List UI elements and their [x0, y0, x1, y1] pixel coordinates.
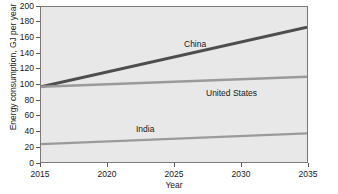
y-tick-label: 20: [25, 142, 34, 152]
x-tick-mark: [40, 163, 41, 167]
y-tick-label: 180: [20, 16, 34, 26]
y-tick-label: 40: [25, 126, 34, 136]
x-tick-mark: [241, 163, 242, 167]
series-label-united-states: United States: [206, 88, 257, 98]
y-tick-label: 0: [29, 158, 34, 168]
plot-area: [40, 6, 308, 163]
x-tick-label: 2030: [221, 169, 261, 179]
series-label-china: China: [184, 39, 206, 49]
y-tick-label: 60: [25, 110, 34, 120]
y-tick-label: 160: [20, 32, 34, 42]
x-tick-label: 2020: [87, 169, 127, 179]
y-tick-label: 140: [20, 48, 34, 58]
x-tick-mark: [174, 163, 175, 167]
x-tick-label: 2015: [20, 169, 60, 179]
y-axis-title: Energy consumption, GJ per year: [8, 0, 18, 142]
energy-consumption-line-chart: Energy consumption, GJ per year 02040608…: [0, 0, 338, 194]
x-tick-label: 2035: [288, 169, 328, 179]
series-lines: [41, 7, 307, 162]
y-tick-label: 80: [25, 95, 34, 105]
y-tick-label: 120: [20, 63, 34, 73]
x-axis-title: Year: [40, 180, 308, 190]
y-tick-label: 100: [20, 79, 34, 89]
x-tick-mark: [308, 163, 309, 167]
series-line-india: [41, 133, 307, 144]
x-tick-mark: [107, 163, 108, 167]
y-tick-label: 200: [20, 1, 34, 11]
x-tick-label: 2025: [154, 169, 194, 179]
series-label-india: India: [136, 124, 154, 134]
